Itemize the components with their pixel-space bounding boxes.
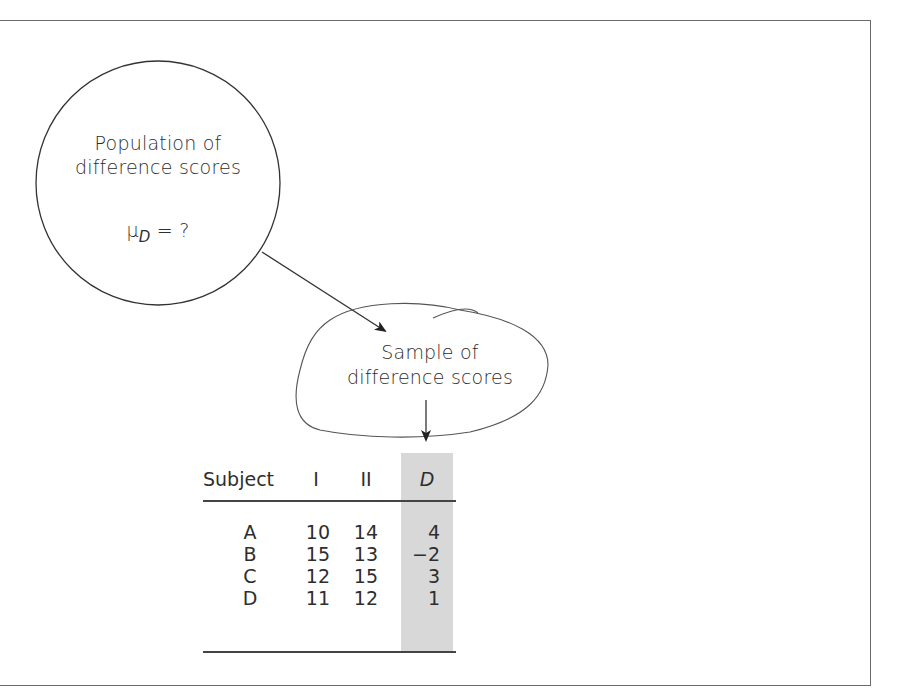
row-i: 12 — [296, 564, 330, 588]
row-subject: C — [238, 564, 262, 588]
header-subject: Subject — [203, 467, 274, 491]
mu-subscript: D — [139, 228, 151, 246]
row-ii: 14 — [344, 520, 378, 544]
row-d: 4 — [400, 520, 440, 544]
table-bottom-rule — [203, 651, 456, 653]
row-subject: D — [238, 586, 262, 610]
mu-equals: = ? — [151, 219, 190, 241]
population-mean-formula: μD = ? — [40, 218, 276, 249]
population-label-line2: difference scores — [40, 155, 276, 179]
row-subject: B — [238, 542, 262, 566]
population-label-line1: Population of — [40, 131, 276, 155]
mu-symbol: μ — [127, 219, 139, 241]
header-d: D — [412, 467, 442, 491]
header-i: I — [306, 467, 326, 491]
row-ii: 13 — [344, 542, 378, 566]
row-i: 10 — [296, 520, 330, 544]
sample-blob-overlap-stroke — [433, 309, 478, 318]
row-d: −2 — [400, 542, 440, 566]
sample-label-line1: Sample of — [315, 340, 545, 364]
header-ii: II — [354, 467, 378, 491]
row-i: 11 — [296, 586, 330, 610]
row-d: 3 — [400, 564, 440, 588]
row-d: 1 — [400, 586, 440, 610]
row-subject: A — [238, 520, 262, 544]
row-ii: 15 — [344, 564, 378, 588]
table-header-rule — [203, 500, 456, 502]
population-circle — [36, 61, 280, 305]
population-to-sample-arrow — [262, 252, 385, 331]
sample-label-line2: difference scores — [315, 365, 545, 389]
row-ii: 12 — [344, 586, 378, 610]
row-i: 15 — [296, 542, 330, 566]
